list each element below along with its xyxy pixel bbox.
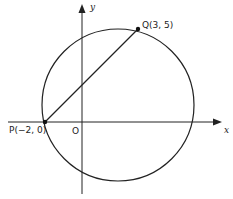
x-axis-label: x xyxy=(224,125,229,135)
point-p-label: P(−2, 0) xyxy=(9,125,46,135)
point-q xyxy=(136,27,140,31)
x-axis-arrow-icon xyxy=(213,119,222,126)
diagram: y x O P(−2, 0) Q(3, 5) xyxy=(0,0,233,199)
segment-pq xyxy=(45,29,138,122)
origin-label: O xyxy=(72,126,79,136)
y-axis-arrow-icon xyxy=(79,4,86,13)
point-p xyxy=(43,120,47,124)
y-axis-label: y xyxy=(89,2,96,12)
circle xyxy=(42,29,194,181)
point-q-label: Q(3, 5) xyxy=(142,20,173,30)
